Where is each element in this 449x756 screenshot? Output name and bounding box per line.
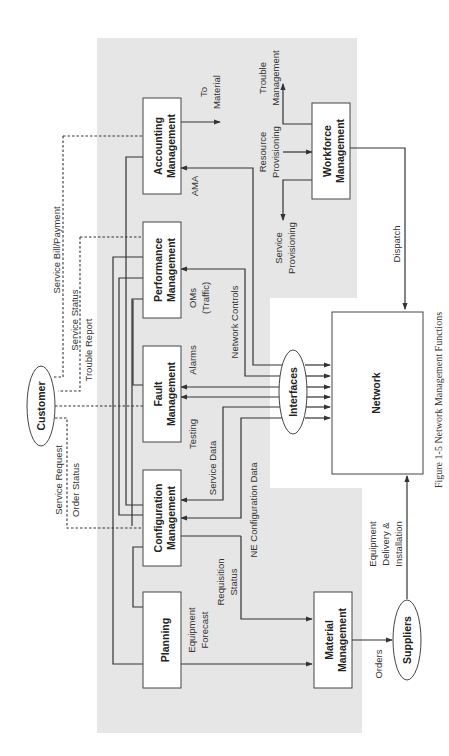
node-customer: Customer xyxy=(27,366,55,446)
node-network: Network xyxy=(332,312,423,474)
node-planning: Planning xyxy=(143,592,181,688)
node-interfaces: Interfaces xyxy=(279,350,307,434)
svg-text:Service Data: Service Data xyxy=(207,440,218,495)
svg-text:Performance: Performance xyxy=(152,238,164,302)
node-workforce-management: Workforce Management xyxy=(312,103,350,199)
svg-text:Service Bill/Payment: Service Bill/Payment xyxy=(51,206,62,293)
svg-text:Resource: Resource xyxy=(257,132,268,173)
svg-text:NE Configuration Data: NE Configuration Data xyxy=(248,462,259,558)
svg-text:Network Controls: Network Controls xyxy=(229,285,240,358)
svg-text:Service Status: Service Status xyxy=(69,289,80,350)
svg-text:Equipment: Equipment xyxy=(367,521,378,567)
svg-text:Management: Management xyxy=(165,237,177,302)
svg-text:Delivery &: Delivery & xyxy=(380,522,391,566)
figure-caption: Figure 1-5 Network Management Functions xyxy=(433,312,444,488)
svg-text:Equipment: Equipment xyxy=(186,607,197,653)
network-management-functions-diagram: Accounting Management Performance Manage… xyxy=(0,0,449,756)
svg-text:Planning: Planning xyxy=(159,618,171,662)
svg-text:Status: Status xyxy=(228,568,239,595)
svg-text:Management: Management xyxy=(165,485,177,550)
node-suppliers: Suppliers xyxy=(393,600,421,680)
svg-text:Service: Service xyxy=(273,232,284,264)
svg-text:Forecast: Forecast xyxy=(199,611,210,648)
svg-text:Testing: Testing xyxy=(187,419,198,449)
svg-text:Requisition: Requisition xyxy=(215,559,226,606)
svg-text:Trouble: Trouble xyxy=(257,62,268,94)
svg-text:Management: Management xyxy=(165,113,177,178)
node-fault-management: Fault Management xyxy=(143,346,181,442)
node-accounting-management: Accounting Management xyxy=(143,98,181,194)
svg-text:Accounting: Accounting xyxy=(152,117,164,175)
svg-text:Workforce: Workforce xyxy=(321,125,333,177)
node-configuration-management: Configuration Management xyxy=(143,470,181,566)
svg-text:Provisioning: Provisioning xyxy=(286,222,297,274)
svg-text:Material: Material xyxy=(211,75,222,109)
svg-text:Orders: Orders xyxy=(373,649,384,678)
svg-text:Dispatch: Dispatch xyxy=(391,226,402,263)
svg-text:Management: Management xyxy=(334,118,346,183)
svg-text:Service Request: Service Request xyxy=(53,445,64,515)
svg-text:Configuration: Configuration xyxy=(152,484,164,553)
svg-text:Order Status: Order Status xyxy=(70,463,81,517)
svg-text:Alarms: Alarms xyxy=(187,345,198,375)
svg-text:(Traffic): (Traffic) xyxy=(200,282,211,314)
svg-text:To: To xyxy=(198,87,209,97)
svg-text:AMA: AMA xyxy=(189,175,200,196)
svg-text:Interfaces: Interfaces xyxy=(287,367,299,417)
svg-text:Management: Management xyxy=(336,607,348,672)
svg-text:Management: Management xyxy=(270,50,281,106)
svg-text:Provisioning: Provisioning xyxy=(270,126,281,178)
svg-text:Material: Material xyxy=(323,620,335,660)
svg-text:OMs: OMs xyxy=(187,288,198,308)
svg-text:Installation: Installation xyxy=(393,521,404,566)
node-material-management: Material Management xyxy=(314,592,352,688)
svg-text:Customer: Customer xyxy=(35,381,47,430)
svg-text:Network: Network xyxy=(370,372,382,414)
node-performance-management: Performance Management xyxy=(143,222,181,318)
svg-text:Suppliers: Suppliers xyxy=(401,616,413,664)
svg-text:Trouble Report: Trouble Report xyxy=(83,318,94,381)
svg-text:Management: Management xyxy=(165,361,177,426)
svg-text:Fault: Fault xyxy=(152,381,164,407)
